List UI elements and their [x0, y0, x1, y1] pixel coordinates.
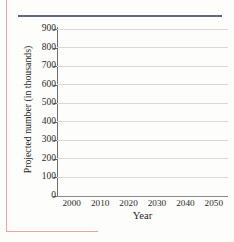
gridline — [57, 66, 228, 67]
x-tick-label: 2030 — [143, 199, 171, 208]
x-tick-label: 2010 — [86, 199, 114, 208]
x-tick-label: 2000 — [58, 199, 86, 208]
gridline — [57, 177, 228, 178]
x-tick-label: 2040 — [171, 199, 199, 208]
y-tick-label: 300 — [42, 135, 56, 145]
y-axis-line — [57, 27, 58, 197]
chart-plot-area: 0100200300400500600700800900 20002010202… — [0, 0, 234, 242]
gridline — [57, 158, 228, 159]
gridline — [57, 84, 228, 85]
y-axis-title: Projected number (in thousands) — [22, 20, 33, 200]
x-tick-label: 2020 — [115, 199, 143, 208]
gridline — [57, 121, 228, 122]
gridline — [57, 47, 228, 48]
y-tick-label: 0 — [51, 191, 56, 201]
y-tick-label: 200 — [42, 154, 56, 164]
x-tick-label: 2050 — [200, 199, 228, 208]
x-axis-title: Year — [57, 210, 228, 221]
y-tick-label: 700 — [42, 61, 56, 71]
gridline — [57, 29, 228, 30]
x-axis-line — [57, 196, 228, 197]
gridline — [57, 103, 228, 104]
gridline — [57, 140, 228, 141]
y-tick-label: 600 — [42, 80, 56, 90]
y-tick-label: 500 — [42, 98, 56, 108]
y-tick-label: 400 — [42, 117, 56, 127]
chart-page: 0100200300400500600700800900 20002010202… — [0, 0, 234, 242]
y-tick-label: 100 — [42, 172, 56, 182]
y-tick-label: 900 — [42, 24, 56, 34]
y-tick-label: 800 — [42, 43, 56, 53]
